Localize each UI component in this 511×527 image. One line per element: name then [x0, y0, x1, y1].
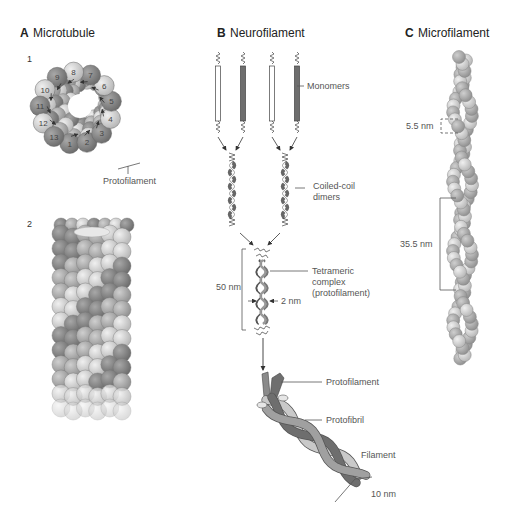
protofilament-number: 12 [39, 119, 48, 128]
panel-b-neurofilament: B Neurofilament Monomers Coiled-coil dim… [216, 26, 397, 502]
monomer-tail-squiggle [241, 121, 245, 133]
neurofilament-rope [257, 372, 366, 483]
protofilament-number: 2 [85, 138, 90, 147]
cytoskeleton-diagram: A Microtubule 1 12345678910111213 Protof… [0, 0, 511, 527]
protofibril-end-cap [278, 395, 288, 401]
dimers-label-line2: dimers [313, 192, 341, 202]
monomer-head-squiggle [216, 52, 220, 64]
length-bracket-50nm [242, 249, 246, 330]
protofilament-number: 9 [55, 73, 60, 82]
length-label-50nm: 50 nm [216, 282, 241, 292]
protofilament-number: 6 [102, 82, 107, 91]
assembly-arrow [218, 137, 226, 150]
panel-a-microtubule: A Microtubule 1 12345678910111213 Protof… [20, 26, 157, 420]
diameter-label-10nm: 10 nm [371, 489, 396, 499]
monomer-head-squiggle [270, 52, 274, 64]
protofilament-number: 5 [109, 97, 114, 106]
tetramer-tail-squiggle [254, 326, 270, 330]
microtubule-opening [74, 227, 110, 237]
subunit-spacing-label: 5.5 nm [406, 121, 434, 131]
protofilament-label-a: Protofilament [103, 176, 157, 186]
monomer-head-squiggle [241, 52, 245, 64]
monomers-group [216, 52, 300, 133]
actin-monomer [460, 304, 473, 317]
tubulin-subunit [113, 402, 131, 420]
actin-monomer [451, 189, 464, 202]
dimer-tail-squiggle [282, 218, 288, 226]
monomer-rod [270, 66, 275, 121]
tetramer-label-line1: Tetrameric [312, 266, 355, 276]
actin-monomer [459, 89, 472, 102]
microtubule-side-view [52, 218, 134, 420]
actin-monomer [453, 51, 466, 64]
monomers-label: Monomers [307, 81, 350, 91]
panel-b-letter: B [217, 26, 226, 40]
protofilament-number: 7 [88, 71, 93, 80]
dimer-head-squiggle [282, 153, 288, 161]
monomer-rod [295, 66, 300, 121]
panel-a-title: Microtubule [33, 26, 95, 40]
actin-monomer [452, 120, 465, 133]
protofilament-number: 4 [108, 115, 113, 124]
actin-double-helix [447, 51, 479, 366]
protofilament-number: 8 [71, 68, 76, 77]
dimer-head-squiggle [229, 153, 235, 161]
width-label-2nm: 2 nm [281, 296, 301, 306]
filament-label: Filament [361, 450, 396, 460]
protofilament-number: 11 [36, 102, 45, 111]
panel-b-title: Neurofilament [230, 26, 305, 40]
panel-c-microfilament: C Microfilament 5.5 nm 35.5 nm [400, 26, 490, 365]
protofibril-label: Protofibril [326, 415, 364, 425]
actin-monomer [461, 234, 474, 247]
actin-monomer [458, 158, 471, 171]
panel-c-title: Microfilament [418, 26, 490, 40]
assembly-arrow [272, 137, 280, 150]
monomer-rod [216, 66, 221, 121]
dimer-tail-squiggle [229, 218, 235, 226]
tetrameric-complex [254, 248, 270, 335]
protofilament-label-b: Protofilament [326, 377, 380, 387]
coiled-coil-dimers [229, 153, 288, 226]
protofilament-number: 3 [99, 129, 104, 138]
protofilament-number: 1 [68, 140, 73, 149]
panel-a-subfigure-2-label: 2 [27, 219, 32, 229]
protofilament-bracket [118, 163, 140, 169]
actin-monomer [454, 265, 467, 278]
assembly-arrow [290, 137, 297, 150]
tetramer-label-line3: (protofilament) [312, 288, 370, 298]
helix-repeat-label: 35.5 nm [400, 239, 433, 249]
protofilament-number: 10 [41, 86, 50, 95]
microtubule-lumen [68, 94, 92, 118]
assembly-arrow [236, 137, 243, 150]
monomer-tail-squiggle [216, 121, 220, 133]
tetramer-head-squiggle [254, 248, 270, 252]
tetramer-tail-squiggle [256, 331, 268, 335]
assembly-arrow [240, 233, 253, 245]
diameter-line [335, 479, 355, 502]
monomer-tail-squiggle [295, 121, 299, 133]
monomer-tail-squiggle [270, 121, 274, 133]
actin-monomer [453, 335, 466, 348]
protofilament-number: 13 [50, 133, 59, 142]
panel-c-letter: C [405, 26, 414, 40]
tetramer-label-line2: complex [312, 277, 346, 287]
tetramer-head-squiggle [256, 254, 268, 258]
dimer-to-tetramer-arrows [240, 233, 280, 245]
monomer-head-squiggle [295, 52, 299, 64]
monomer-rod [241, 66, 246, 121]
panel-a-letter: A [20, 26, 29, 40]
panel-a-subfigure-1-label: 1 [27, 54, 32, 64]
assembly-arrow [268, 233, 280, 245]
monomer-to-dimer-arrows [218, 137, 297, 150]
dimers-label-line1: Coiled-coil [313, 181, 355, 191]
protofibril-end-cap [257, 402, 267, 408]
protofilament-end [262, 372, 270, 397]
